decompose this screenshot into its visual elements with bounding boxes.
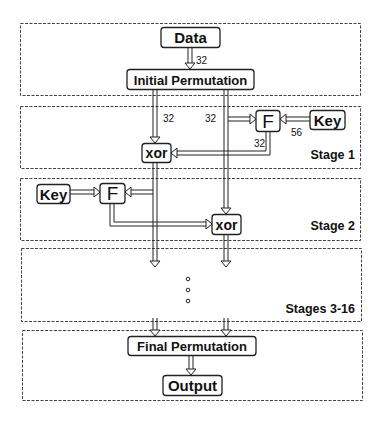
- panel-stage-2: [21, 179, 361, 241]
- stage1-key-label: Key: [314, 112, 342, 129]
- stage2-key-label: Key: [40, 186, 68, 203]
- data-label: Data: [174, 29, 207, 46]
- arrow-data-to-ip: [185, 48, 195, 69]
- output-label: Output: [168, 377, 217, 394]
- arrow-fp-to-output: [186, 356, 196, 375]
- arrow-left-to-f2: [125, 187, 153, 197]
- width-label-data-to-ip: 32: [196, 55, 208, 66]
- ellipsis-dots: [186, 277, 190, 303]
- arrow-right-to-fp: [221, 318, 231, 336]
- stage1-xor-label: xor: [146, 145, 168, 161]
- arrow-left-to-fp: [150, 318, 160, 336]
- initial-permutation-label: Initial Permutation: [134, 73, 247, 88]
- width-label-f-out: 32: [254, 138, 266, 149]
- stage2-xor-label: xor: [216, 217, 238, 233]
- stages-3-16-label: Stages 3-16: [286, 302, 356, 316]
- stage1-f-label: F: [262, 111, 274, 132]
- arrow-ip-to-xor2: [221, 90, 231, 214]
- arrow-f2-to-xor2: [110, 203, 212, 229]
- arrow-right-to-f1: [228, 114, 256, 124]
- arrow-xor2-down: [221, 235, 231, 267]
- des-diagram: Data Initial Permutation F Key xor Key F…: [0, 0, 383, 422]
- width-label-left-half: 32: [163, 113, 175, 124]
- final-permutation-label: Final Permutation: [137, 339, 247, 354]
- stage-2-label: Stage 2: [311, 219, 356, 233]
- arrow-key2-to-f2: [70, 187, 100, 197]
- arrow-key1-to-f1: [280, 114, 310, 124]
- stage2-f-label: F: [107, 183, 119, 204]
- stage-1-label: Stage 1: [311, 148, 356, 162]
- width-label-key-to-f: 56: [291, 127, 303, 138]
- width-label-right-half: 32: [205, 113, 217, 124]
- arrow-ip-to-xor1: [150, 90, 160, 143]
